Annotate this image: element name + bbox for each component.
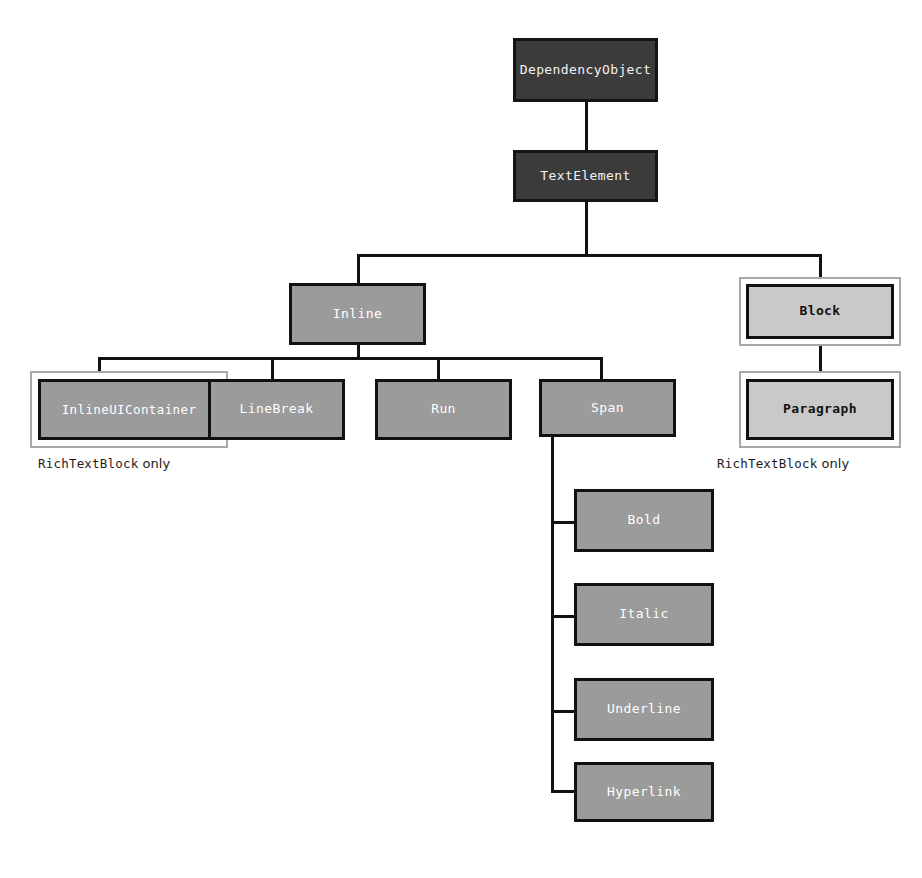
bus-textelement-children <box>357 254 822 257</box>
edge-span-underline <box>551 710 575 713</box>
caption-inlineuicontainer-note: RichTextBlock only <box>38 456 170 471</box>
node-linebreak[interactable]: LineBreak <box>208 379 345 440</box>
node-underline[interactable]: Underline <box>574 678 714 741</box>
caption-right-only: only <box>822 456 850 471</box>
node-italic[interactable]: Italic <box>574 583 714 646</box>
node-span[interactable]: Span <box>539 379 676 437</box>
edge-bus-linebreak <box>271 357 274 379</box>
edge-bus-run <box>437 357 440 379</box>
class-hierarchy-diagram: DependencyObject TextElement Inline Bloc… <box>0 0 922 878</box>
edge-span-bold <box>551 521 575 524</box>
node-inlineuicontainer[interactable]: InlineUIContainer <box>38 379 220 440</box>
node-textelement[interactable]: TextElement <box>513 150 658 202</box>
node-paragraph[interactable]: Paragraph <box>746 379 894 440</box>
caption-paragraph-note: RichTextBlock only <box>717 456 849 471</box>
node-dependencyobject[interactable]: DependencyObject <box>513 38 658 102</box>
edge-dependencyobject-textelement <box>585 100 588 152</box>
edge-bus-inline <box>357 254 360 284</box>
edge-bus-span <box>600 357 603 379</box>
edge-span-italic <box>551 615 575 618</box>
caption-left-only: only <box>143 456 171 471</box>
caption-left-name: RichTextBlock <box>38 456 138 471</box>
node-bold[interactable]: Bold <box>574 489 714 552</box>
node-hyperlink[interactable]: Hyperlink <box>574 762 714 822</box>
edge-textelement-stem <box>585 200 588 256</box>
edge-span-hyperlink <box>551 790 575 793</box>
bus-inline-children <box>98 357 603 360</box>
caption-right-name: RichTextBlock <box>717 456 817 471</box>
node-block[interactable]: Block <box>746 284 894 339</box>
node-run[interactable]: Run <box>375 379 512 440</box>
node-inline[interactable]: Inline <box>289 283 426 345</box>
